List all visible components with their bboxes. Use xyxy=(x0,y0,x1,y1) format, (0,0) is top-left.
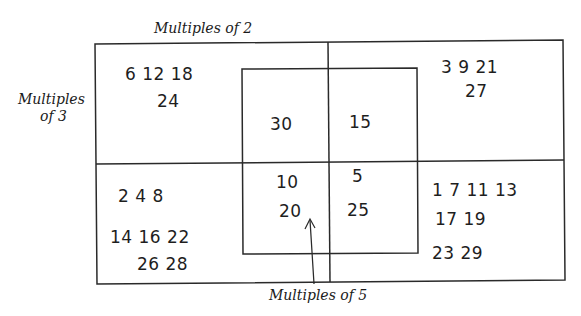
region-none-row3: 23 29 xyxy=(432,243,483,263)
region-2-5-row2: 20 xyxy=(279,201,302,221)
region-3-only-row1: 3 9 21 xyxy=(441,57,498,77)
region-none-row2: 17 19 xyxy=(435,209,486,229)
region-none-row1: 1 7 11 13 xyxy=(432,180,518,200)
region-2-only-row1: 2 4 8 xyxy=(118,186,164,206)
region-2-and-3-row2: 24 xyxy=(157,91,180,111)
venn-lines xyxy=(0,0,581,316)
vertical-divider xyxy=(328,42,330,282)
horizontal-divider xyxy=(96,160,564,164)
label-multiples-of-3-line2: of 3 xyxy=(40,108,67,124)
region-2-and-3-row1: 6 12 18 xyxy=(125,64,193,84)
region-2-3-5: 30 xyxy=(270,114,293,134)
region-2-5-row1: 10 xyxy=(276,172,299,192)
label-multiples-of-2: Multiples of 2 xyxy=(154,20,252,36)
region-5-only-row2: 25 xyxy=(347,200,370,220)
region-3-5: 15 xyxy=(349,112,372,132)
pointer-arrow-shaft xyxy=(310,220,314,284)
region-3-only-row2: 27 xyxy=(465,81,488,101)
label-multiples-of-5: Multiples of 5 xyxy=(269,287,367,303)
region-2-only-row2: 14 16 22 xyxy=(110,227,190,247)
label-multiples-of-3-line1: Multiples xyxy=(18,91,85,107)
region-5-only-row1: 5 xyxy=(352,166,363,186)
region-2-only-row3: 26 28 xyxy=(137,254,188,274)
